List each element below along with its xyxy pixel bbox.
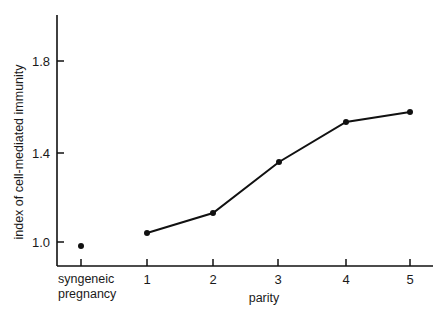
parity-series-line [147,112,410,233]
x-tick-label: 3 [274,272,281,287]
syngeneic-label: syngeneic [58,272,114,286]
y-tick-label: 1.8 [32,54,50,69]
x-tick-label: 2 [209,272,216,287]
y-tick-label: 1.0 [32,235,50,250]
chart: 1.0 1.4 1.8 1 2 3 4 5 syngeneic pregnanc… [0,0,446,319]
data-points [78,109,413,249]
x-tick-label: 4 [342,272,349,287]
data-point [144,230,150,236]
y-axis-title: index of cell-mediated immunity [12,64,26,240]
data-point [276,159,282,165]
x-axis-title: parity [249,291,280,305]
data-point-syngeneic [78,243,84,249]
data-point [407,109,413,115]
data-point [343,119,349,125]
chart-canvas: 1.0 1.4 1.8 1 2 3 4 5 syngeneic pregnanc… [0,0,446,319]
data-point [210,210,216,216]
y-ticks: 1.0 1.4 1.8 [32,54,64,250]
pregnancy-label: pregnancy [58,287,117,301]
x-tick-label: 1 [143,272,150,287]
x-tick-label: 5 [406,272,413,287]
y-tick-label: 1.4 [32,146,50,161]
